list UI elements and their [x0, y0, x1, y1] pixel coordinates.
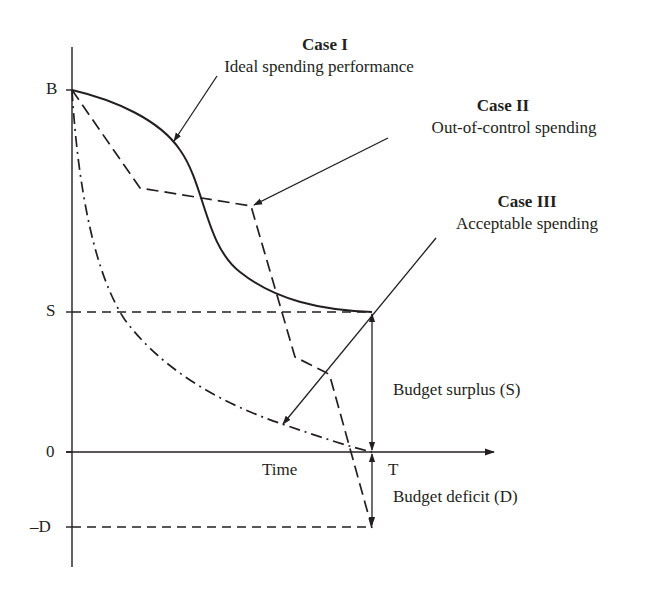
case1-title: Case I [302, 36, 348, 53]
y-label-zero: 0 [46, 443, 55, 460]
case2-description: Out-of-control spending [432, 119, 597, 136]
case2-pointer-arrow [254, 138, 388, 205]
x-axis-label: Time [262, 461, 297, 478]
case2-curve [72, 90, 372, 528]
case3-curve [72, 90, 372, 452]
x-label-t: T [388, 461, 398, 478]
y-label-neg-d: –D [30, 518, 51, 535]
budget-spending-diagram [0, 0, 652, 597]
case3-title: Case III [497, 193, 556, 210]
case3-description: Acceptable spending [456, 215, 598, 232]
y-label-s: S [46, 302, 55, 319]
case2-title: Case II [477, 97, 529, 114]
case1-description: Ideal spending performance [224, 58, 414, 75]
y-label-b: B [46, 80, 57, 97]
budget-surplus-label: Budget surplus (S) [393, 381, 521, 398]
budget-deficit-label: Budget deficit (D) [393, 488, 518, 505]
y-axis [66, 47, 72, 567]
case1-pointer-arrow [174, 76, 217, 141]
